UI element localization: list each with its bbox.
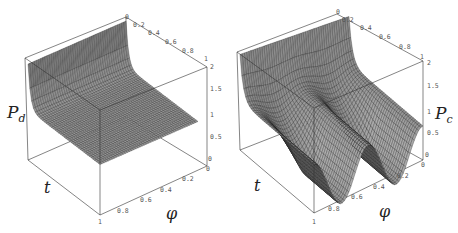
tick-label: 1 [312,218,316,226]
tick-label: 0 [421,161,425,169]
z-axis-label-pc: Pc [434,103,453,126]
plot-pc: 00.20.40.60.8121.510.5000.20.40.60.81 Pc… [229,0,458,233]
tick-label: 0.6 [351,193,363,201]
plot-pd: 00.20.40.60.8121.510.5000.20.40.60.81 Pd… [0,0,229,233]
tick-label: 0 [208,155,212,163]
tick-label: 0 [125,13,129,21]
tick-label: 0.2 [133,21,145,29]
tick-label: 0.8 [399,43,411,51]
tick-label: 2 [427,59,431,67]
tick-label: 0.2 [182,175,194,183]
tick-label: 0.6 [140,196,152,204]
tick-label: 0.8 [117,207,129,215]
tick-label: 1 [420,53,424,61]
tick-label: 0 [425,151,429,159]
tick-label: 1 [210,111,214,119]
tick-label: 1.5 [210,85,222,93]
tick-label: 0.5 [210,133,222,141]
tick-label: 1 [204,55,208,63]
tick-label: 0.4 [148,29,160,37]
tick-label: 0.8 [328,205,340,213]
surface-plot-pc: 00.20.40.60.8121.510.5000.20.40.60.81 Pc… [229,0,458,233]
tick-label: 1 [98,218,102,226]
phi-axis-label: φ [379,202,391,221]
z-axis-label-pd: Pd [6,102,26,125]
tick-label: 0.2 [342,16,354,24]
tick-label: 1 [427,108,431,116]
phi-axis-label: φ [166,204,178,223]
t-axis-label: t [44,178,51,197]
tick-label: 0.5 [427,129,439,137]
t-axis-label: t [254,176,261,195]
tick-label: 0.2 [397,172,409,180]
tick-label: 0.4 [373,183,385,191]
tick-label: 2 [210,63,214,71]
tick-label: 0 [336,8,340,16]
tick-label: 0 [206,165,210,173]
surface-plot-pd: 00.20.40.60.8121.510.5000.20.40.60.81 Pd… [0,0,229,233]
tick-label: 0.4 [160,186,172,194]
tick-label: 0.6 [165,38,177,46]
tick-label: 1.5 [427,82,439,90]
tick-label: 0.4 [360,24,372,32]
tick-label: 0.8 [182,47,194,55]
tick-label: 0.6 [379,33,391,41]
